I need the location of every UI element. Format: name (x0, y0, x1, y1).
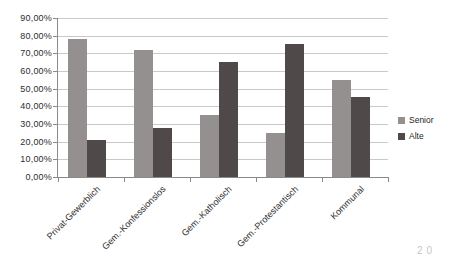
bar-senior-kommunal (332, 80, 351, 177)
y-tick-70,00% (53, 53, 57, 54)
x-tick-0 (58, 178, 59, 182)
x-axis-label-gem-katholisch: Gem.-Katholisch (180, 184, 234, 238)
y-tick-80,00% (53, 36, 57, 37)
y-tick-0,00% (53, 177, 57, 178)
x-axis-label-gem-konfessionslos: Gem.-Konfessionslos (101, 184, 169, 252)
bar-senior-gem-katholisch (200, 115, 219, 177)
y-tick-50,00% (53, 89, 57, 90)
gridline-70,00% (58, 53, 388, 54)
x-axis-line (54, 177, 389, 178)
x-tick-2 (190, 178, 191, 182)
x-tick-4 (322, 178, 323, 182)
y-axis-label-0,00%: 0,00% (0, 172, 52, 182)
y-tick-30,00% (53, 124, 57, 125)
y-axis-line (57, 18, 58, 178)
legend-label-alte: Alte (409, 132, 424, 141)
y-axis-label-30,00%: 30,00% (0, 119, 52, 129)
gridline-80,00% (58, 36, 388, 37)
y-tick-60,00% (53, 71, 57, 72)
legend-swatch-alte (398, 133, 405, 140)
bar-alte-kommunal (351, 97, 370, 177)
y-tick-10,00% (53, 159, 57, 160)
y-axis-label-60,00%: 60,00% (0, 66, 52, 76)
x-tick-3 (256, 178, 257, 182)
chart-page: Senior Alte 20 0,00%10,00%20,00%30,00%40… (0, 0, 450, 263)
y-axis-label-40,00%: 40,00% (0, 101, 52, 111)
y-tick-90,00% (53, 18, 57, 19)
plot-area (58, 18, 388, 177)
y-axis-label-70,00%: 70,00% (0, 48, 52, 58)
legend-item-senior: Senior (398, 116, 434, 125)
x-axis-label-gem-protestantisch: Gem.-Protestantisch (235, 184, 300, 249)
y-tick-40,00% (53, 106, 57, 107)
bar-senior-privat-gewerblich (68, 39, 87, 177)
legend-label-senior: Senior (409, 116, 434, 125)
y-axis-label-10,00%: 10,00% (0, 154, 52, 164)
bar-chart: Senior Alte 20 0,00%10,00%20,00%30,00%40… (0, 0, 450, 263)
x-axis-label-kommunal: Kommunal (329, 184, 366, 221)
gridline-90,00% (58, 18, 388, 19)
bar-senior-gem-protestantisch (266, 133, 285, 177)
legend-item-alte: Alte (398, 132, 434, 141)
page-number-artifact: 20 (417, 245, 436, 256)
bar-alte-gem-konfessionslos (153, 128, 172, 177)
legend-swatch-senior (398, 117, 405, 124)
chart-legend: Senior Alte (398, 116, 434, 141)
y-axis-label-90,00%: 90,00% (0, 13, 52, 23)
x-axis-label-privat-gewerblich: Privat-Gewerblich (45, 184, 102, 241)
bar-alte-privat-gewerblich (87, 140, 106, 177)
bar-alte-gem-katholisch (219, 62, 238, 177)
y-axis-label-80,00%: 80,00% (0, 31, 52, 41)
bar-alte-gem-protestantisch (285, 44, 304, 177)
y-axis-label-50,00%: 50,00% (0, 84, 52, 94)
y-axis-label-20,00%: 20,00% (0, 137, 52, 147)
y-tick-20,00% (53, 142, 57, 143)
x-tick-1 (124, 178, 125, 182)
bar-senior-gem-konfessionslos (134, 50, 153, 177)
x-tick-5 (388, 178, 389, 182)
